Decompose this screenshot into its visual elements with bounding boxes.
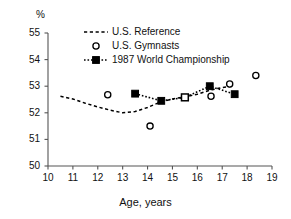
data-point-2-4: [231, 91, 238, 98]
x-tick-label-18: 18: [236, 173, 258, 183]
data-point-2-0: [132, 90, 139, 97]
x-tick-label-15: 15: [161, 173, 183, 183]
x-axis-title: Age, years: [0, 197, 291, 208]
data-point-2-2: [181, 94, 188, 101]
data-point-1-0: [105, 92, 111, 98]
series-2: [132, 83, 238, 104]
data-point-1-2: [208, 93, 214, 99]
data-point-1-1: [147, 123, 153, 129]
data-point-2-1: [158, 97, 165, 104]
x-tick-label-19: 19: [261, 173, 283, 183]
x-tick-label-11: 11: [62, 173, 84, 183]
legend-swatch-2: [84, 57, 108, 64]
data-point-1-4: [253, 72, 259, 78]
series-0: [60, 86, 232, 113]
legend-label-2: 1987 World Championship: [112, 55, 230, 65]
x-tick-label-17: 17: [211, 173, 233, 183]
chart-figure: % 505152535455 10111213141516171819 U.S.…: [0, 0, 291, 219]
y-tick-label-51: 51: [18, 134, 40, 144]
legend-label-1: U.S. Gymnasts: [112, 41, 179, 51]
x-tick-label-13: 13: [112, 173, 134, 183]
series-line-0: [60, 86, 232, 113]
legend-swatch-1: [93, 43, 99, 49]
series-layer: [60, 72, 258, 129]
data-point-1-3: [227, 81, 233, 87]
x-tick-label-14: 14: [137, 173, 159, 183]
y-tick-label-52: 52: [18, 108, 40, 118]
x-tick-label-16: 16: [186, 173, 208, 183]
y-tick-label-54: 54: [18, 55, 40, 65]
y-tick-label-50: 50: [18, 161, 40, 171]
y-tick-label-55: 55: [18, 28, 40, 38]
y-tick-label-53: 53: [18, 81, 40, 91]
data-point-2-3: [206, 83, 213, 90]
x-tick-label-10: 10: [37, 173, 59, 183]
legend-swatches: [84, 32, 108, 63]
x-tick-label-12: 12: [87, 173, 109, 183]
legend-label-0: U.S. Reference: [112, 27, 180, 37]
